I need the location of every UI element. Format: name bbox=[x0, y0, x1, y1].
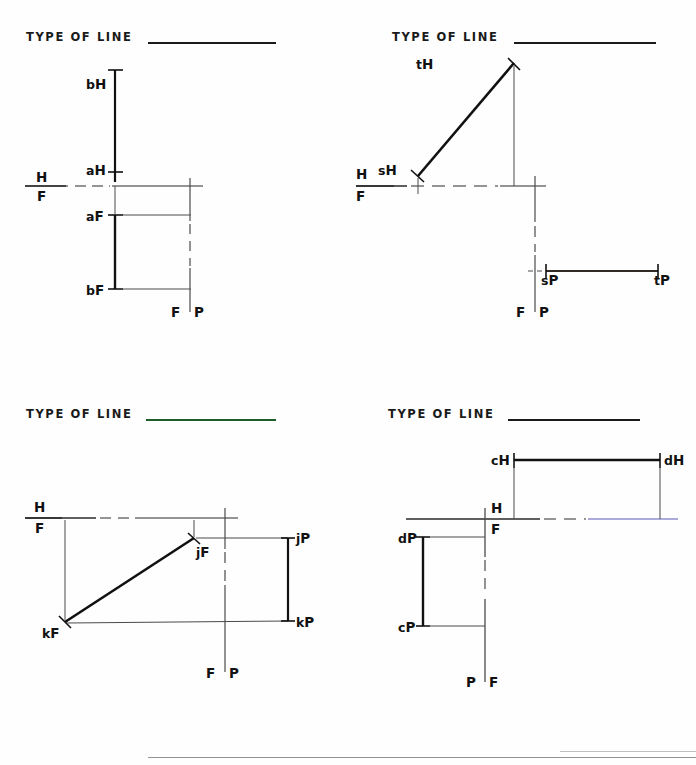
drawing-st bbox=[348, 0, 696, 382]
fold-label-fp-f: F bbox=[171, 306, 180, 320]
fold-label-h: H bbox=[34, 501, 45, 515]
page-edge-line bbox=[148, 757, 696, 758]
problem-ab: TYPE OF LINE bbox=[0, 0, 348, 382]
fold-label-fp-p: P bbox=[194, 306, 204, 320]
drawing-ab bbox=[0, 0, 348, 382]
point-j-f: jF bbox=[196, 544, 210, 560]
fold-label-f: F bbox=[35, 522, 44, 536]
fold-label-fp-p: P bbox=[229, 667, 239, 681]
projector-k-horizontal bbox=[67, 621, 288, 623]
fold-label-fp-f: F bbox=[516, 306, 525, 320]
fold-label-pf-p: P bbox=[466, 676, 476, 690]
point-s-h: sH bbox=[378, 162, 397, 178]
point-j-p: jP bbox=[296, 530, 310, 546]
point-b-h: bH bbox=[86, 76, 106, 92]
point-c-p: cP bbox=[398, 619, 415, 635]
worksheet-sheet: TYPE OF LINE bbox=[0, 0, 696, 765]
fold-label-f: F bbox=[491, 523, 500, 537]
line-st-top-view bbox=[418, 63, 514, 176]
point-k-f: kF bbox=[42, 625, 60, 641]
fold-label-fp-p: P bbox=[539, 306, 549, 320]
point-a-f: aF bbox=[86, 208, 104, 224]
fold-label-h: H bbox=[356, 168, 367, 182]
point-a-h: aH bbox=[86, 162, 106, 178]
point-d-h: dH bbox=[664, 452, 684, 468]
problem-jk: TYPE OF LINE bbox=[0, 382, 348, 765]
drawing-jk bbox=[0, 382, 348, 765]
drawing-cd bbox=[348, 382, 696, 765]
fold-label-h: H bbox=[491, 502, 502, 516]
page-edge-line-secondary bbox=[560, 751, 696, 752]
point-t-h: tH bbox=[416, 56, 433, 72]
problem-st: TYPE OF LINE tH bbox=[348, 0, 696, 382]
line-jk-front-view bbox=[65, 538, 194, 622]
fold-label-fp-f: F bbox=[206, 667, 215, 681]
problem-cd: TYPE OF LINE bbox=[348, 382, 696, 765]
fold-label-pf-f: F bbox=[489, 676, 498, 690]
fold-label-h: H bbox=[36, 171, 47, 185]
point-k-p: kP bbox=[296, 614, 314, 630]
fold-label-f: F bbox=[356, 190, 365, 204]
point-t-p: tP bbox=[654, 272, 670, 288]
point-s-p: sP bbox=[541, 272, 558, 288]
point-c-h: cH bbox=[491, 452, 510, 468]
point-d-p: dP bbox=[398, 530, 417, 546]
point-b-f: bF bbox=[86, 282, 104, 298]
fold-label-f: F bbox=[37, 190, 46, 204]
